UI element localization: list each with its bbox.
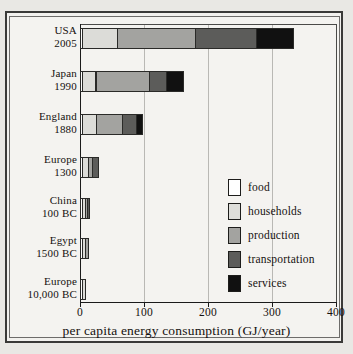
y-label-period: 100 BC xyxy=(3,207,77,220)
bar-segment-transportation xyxy=(87,198,90,219)
bar-segment-transportation xyxy=(92,157,98,178)
bar-segment-services xyxy=(136,114,142,135)
bar-segment-transportation xyxy=(149,71,167,92)
y-label-place: Europe xyxy=(3,153,77,166)
legend-item-food[interactable]: food xyxy=(228,176,338,198)
y-label-period: 2005 xyxy=(3,37,77,50)
y-axis-label-usa-2005: USA2005 xyxy=(3,24,77,49)
bar-england-1880[interactable] xyxy=(80,114,142,135)
legend-item-households[interactable]: households xyxy=(228,200,338,222)
bar-segment-households xyxy=(82,114,97,135)
bar-egypt-1500bc[interactable] xyxy=(80,238,88,259)
x-tick-label-200: 200 xyxy=(199,306,217,318)
legend-swatch-households xyxy=(228,203,241,220)
legend-label-food: food xyxy=(248,181,270,193)
y-axis-label-europe-1300: Europe1300 xyxy=(3,153,77,178)
legend-swatch-food xyxy=(228,179,241,196)
legend-label-production: production xyxy=(248,229,300,241)
y-label-place: USA xyxy=(3,24,77,37)
y-label-period: 1300 xyxy=(3,166,77,179)
y-label-place: Europe xyxy=(3,275,77,288)
y-axis-label-europe-10000bc: Europe10,000 BC xyxy=(3,275,77,300)
legend-label-transportation: transportation xyxy=(248,253,315,265)
y-axis-label-china-100bc: China100 BC xyxy=(3,194,77,219)
bar-china-100bc[interactable] xyxy=(80,198,90,219)
legend-label-households: households xyxy=(248,205,302,217)
legend-item-production[interactable]: production xyxy=(228,224,338,246)
bar-japan-1990[interactable] xyxy=(80,71,183,92)
bar-europe-10000bc[interactable] xyxy=(80,279,85,300)
x-tick-label-400: 400 xyxy=(327,306,345,318)
y-label-period: 1880 xyxy=(3,123,77,136)
y-axis-label-japan-1990: Japan1990 xyxy=(3,67,77,92)
y-axis-labels: USA2005Japan1990England1880Europe1300Chi… xyxy=(0,0,77,354)
bar-segment-production xyxy=(96,114,123,135)
legend-swatch-services xyxy=(228,275,241,292)
bar-segment-production xyxy=(117,28,196,49)
bar-segment-transportation xyxy=(195,28,256,49)
x-tick-label-0: 0 xyxy=(77,306,83,318)
chart-page: USA2005Japan1990England1880Europe1300Chi… xyxy=(0,0,353,354)
legend-swatch-transportation xyxy=(228,251,241,268)
legend-item-transportation[interactable]: transportation xyxy=(228,248,338,270)
y-label-period: 1990 xyxy=(3,80,77,93)
bar-segment-households xyxy=(82,28,118,49)
y-label-period: 1500 BC xyxy=(3,247,77,260)
y-label-place: Egypt xyxy=(3,234,77,247)
x-axis-title: per capita energy consumption (GJ/year) xyxy=(0,323,353,339)
bar-segment-production xyxy=(85,238,88,259)
bar-segment-households xyxy=(82,279,86,300)
bar-europe-1300[interactable] xyxy=(80,157,98,178)
bar-segment-transportation xyxy=(122,114,137,135)
bar-segment-production xyxy=(96,71,150,92)
bar-usa-2005[interactable] xyxy=(80,28,294,49)
bar-segment-households xyxy=(82,71,97,92)
y-label-period: 10,000 BC xyxy=(3,288,77,301)
legend-label-services: services xyxy=(248,277,287,289)
y-label-place: Japan xyxy=(3,67,77,80)
y-axis-label-egypt-1500bc: Egypt1500 BC xyxy=(3,234,77,259)
legend: foodhouseholdsproductiontransportationse… xyxy=(228,176,338,296)
bar-segment-services xyxy=(166,71,184,92)
x-tick-label-300: 300 xyxy=(263,306,281,318)
y-axis-label-england-1880: England1880 xyxy=(3,110,77,135)
bar-segment-services xyxy=(256,28,294,49)
legend-item-services[interactable]: services xyxy=(228,272,338,294)
y-label-place: China xyxy=(3,194,77,207)
legend-swatch-production xyxy=(228,227,241,244)
y-label-place: England xyxy=(3,110,77,123)
x-tick-label-100: 100 xyxy=(135,306,153,318)
